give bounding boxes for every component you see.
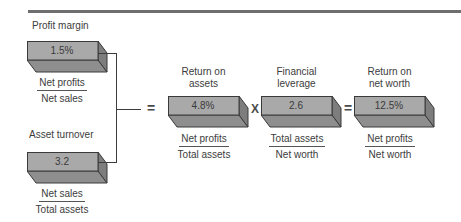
fraction-numerator: Net profits — [179, 133, 229, 147]
asset-turnover-label: Asset turnover — [29, 129, 93, 141]
equals-operator-2: = — [344, 101, 352, 115]
return-on-assets-value: 4.8% — [168, 96, 238, 115]
return-on-net-worth-value: 12.5% — [354, 96, 424, 115]
label-line-1: Financial — [261, 66, 332, 78]
return-on-assets-label: Return on assets — [168, 66, 239, 90]
return-on-net-worth-label: Return on net worth — [354, 66, 425, 90]
fraction-denominator: Total assets — [164, 148, 244, 161]
return-on-net-worth-box: 12.5% — [354, 96, 434, 128]
bracket-vertical — [116, 53, 117, 163]
asset-turnover-box: 3.2 — [27, 152, 107, 184]
profit-margin-value: 1.5% — [27, 41, 97, 60]
profit-margin-label: Profit margin — [32, 20, 89, 32]
bracket-top-stub — [98, 53, 117, 54]
label-line-2: net worth — [354, 78, 425, 90]
financial-leverage-value: 2.6 — [261, 96, 331, 115]
multiply-operator: X — [251, 102, 259, 116]
fraction-denominator: Total assets — [22, 203, 102, 216]
fraction-denominator: Net worth — [350, 148, 430, 161]
return-on-net-worth-fraction: Net profits Net worth — [350, 133, 430, 161]
label-line-2: leverage — [261, 78, 332, 90]
top-rule — [28, 10, 461, 13]
bracket-bottom-stub — [98, 162, 117, 163]
return-on-assets-fraction: Net profits Total assets — [164, 133, 244, 161]
return-on-assets-box: 4.8% — [168, 96, 248, 128]
fraction-denominator: Net worth — [257, 148, 337, 161]
equals-operator-1: = — [147, 101, 155, 115]
profit-margin-fraction: Net profits Net sales — [22, 77, 102, 105]
label-line-1: Return on — [354, 66, 425, 78]
asset-turnover-value: 3.2 — [27, 152, 97, 171]
fraction-numerator: Net sales — [39, 188, 85, 202]
fraction-numerator: Net profits — [37, 77, 87, 91]
label-line-2: assets — [168, 78, 239, 90]
profit-margin-box: 1.5% — [27, 41, 107, 73]
asset-turnover-fraction: Net sales Total assets — [22, 188, 102, 216]
financial-leverage-box: 2.6 — [261, 96, 341, 128]
financial-leverage-label: Financial leverage — [261, 66, 332, 90]
fraction-numerator: Net profits — [365, 133, 415, 147]
financial-leverage-fraction: Total assets Net worth — [257, 133, 337, 161]
label-line-1: Return on — [168, 66, 239, 78]
bracket-middle-stub — [116, 109, 141, 110]
fraction-numerator: Total assets — [269, 133, 326, 147]
fraction-denominator: Net sales — [22, 92, 102, 105]
